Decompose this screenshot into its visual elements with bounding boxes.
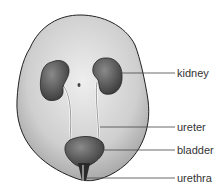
navel [78,83,81,87]
urinary-system-diagram: kidney ureter bladder urethra [0,0,220,190]
kidney-label: kidney [177,67,209,79]
bladder-label: bladder [177,144,214,156]
ureter-label: ureter [177,121,206,133]
urethra-label: urethra [177,172,212,184]
anatomy-illustration [0,0,220,190]
